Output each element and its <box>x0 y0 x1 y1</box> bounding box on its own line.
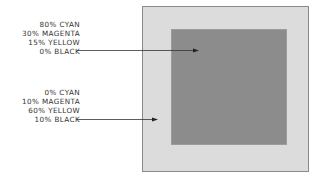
callout-arrows <box>0 0 322 182</box>
arrow-to-inner-square <box>77 49 199 53</box>
arrow-to-outer-square <box>77 118 158 122</box>
